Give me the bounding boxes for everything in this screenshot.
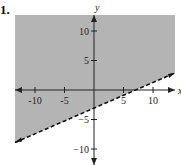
x-tick-label: -5 — [60, 95, 68, 106]
y-tick-label: −10 — [73, 144, 89, 155]
x-tick-label: 5 — [121, 95, 126, 106]
x-axis-label: x — [177, 85, 181, 96]
y-axis-down-arrow-icon — [91, 158, 97, 165]
y-tick-label: 5 — [84, 55, 89, 66]
x-axis-right-arrow-icon — [168, 87, 175, 93]
shaded-region — [15, 15, 175, 143]
inequality-graph: -10-5510105−5−10xy — [0, 0, 181, 165]
y-axis-label: y — [94, 2, 100, 13]
y-tick-label: 10 — [79, 26, 89, 37]
y-tick-label: −5 — [78, 114, 89, 125]
x-tick-label: 10 — [148, 95, 158, 106]
x-tick-label: -10 — [28, 95, 41, 106]
